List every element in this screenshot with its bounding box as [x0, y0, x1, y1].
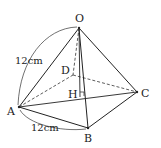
label-A: A	[6, 105, 16, 118]
pyramid-diagram: O A B C D H 12cm 12cm	[0, 0, 161, 148]
edge-OB	[79, 28, 88, 128]
right-angle-mark	[80, 92, 84, 96]
vertex-dot-C	[136, 91, 138, 93]
measure-OA: 12cm	[15, 55, 43, 66]
vertex-dot-B	[87, 127, 89, 129]
label-B: B	[84, 132, 92, 145]
edge-DC	[73, 75, 137, 92]
label-O: O	[75, 12, 84, 25]
label-C: C	[141, 87, 149, 100]
edge-AD	[19, 75, 73, 107]
vertex-dot-O	[78, 27, 80, 29]
vertex-dot-A	[18, 106, 20, 108]
label-H: H	[68, 88, 78, 101]
measure-AB: 12cm	[31, 122, 59, 133]
label-D: D	[61, 64, 70, 77]
edge-OC	[79, 28, 137, 92]
